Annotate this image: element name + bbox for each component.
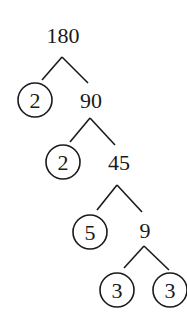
tree-branch	[117, 185, 142, 212]
node-label: 2	[30, 88, 41, 113]
tree-branch	[70, 118, 90, 142]
composite-node: 9	[140, 218, 151, 243]
node-label: 45	[108, 150, 130, 175]
node-label: 3	[165, 278, 176, 303]
node-label: 5	[85, 220, 96, 245]
prime-factor-node: 2	[46, 145, 80, 179]
prime-factor-node: 3	[100, 273, 134, 307]
composite-node: 45	[108, 150, 130, 175]
tree-branch	[90, 118, 115, 145]
node-label: 90	[80, 88, 102, 113]
composite-node: 90	[80, 88, 102, 113]
prime-factor-node: 5	[73, 215, 107, 249]
tree-branch	[62, 57, 88, 83]
tree-branch	[124, 246, 144, 268]
prime-factor-node: 2	[18, 83, 52, 117]
tree-branch	[42, 57, 62, 80]
node-label: 2	[58, 150, 69, 175]
factor-tree-diagram: 1802902455933	[0, 0, 187, 327]
tree-branch	[97, 185, 117, 210]
node-label: 180	[47, 23, 80, 48]
node-label: 9	[140, 218, 151, 243]
composite-node: 180	[47, 23, 80, 48]
node-label: 3	[112, 278, 123, 303]
prime-factor-node: 3	[153, 273, 187, 307]
tree-branch	[144, 246, 169, 270]
